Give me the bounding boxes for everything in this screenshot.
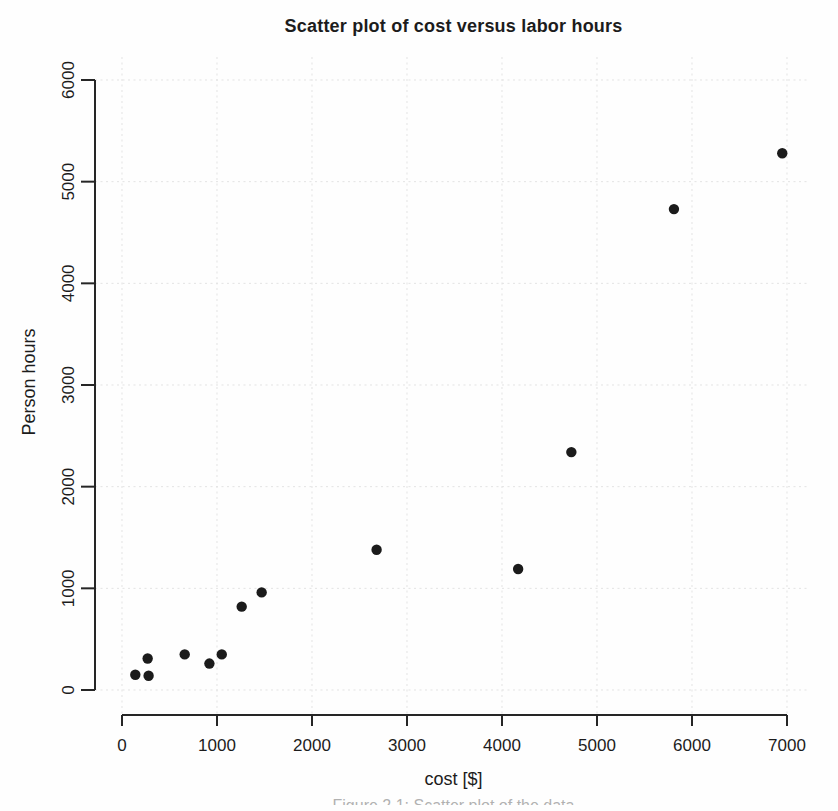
y-tick-label: 0 <box>59 685 78 694</box>
x-tick-label: 4000 <box>483 736 521 755</box>
x-tick-label: 3000 <box>388 736 426 755</box>
x-tick-label: 6000 <box>673 736 711 755</box>
data-point <box>256 587 266 597</box>
figure-page: Scatter plot of cost versus labor hours … <box>0 0 838 811</box>
data-point <box>566 447 576 457</box>
y-tick-label: 1000 <box>59 569 78 607</box>
data-point <box>777 148 787 158</box>
clipped-caption: Figure 2.1: Scatter plot of the data <box>95 799 812 805</box>
data-point <box>204 658 214 668</box>
x-tick-label: 7000 <box>768 736 806 755</box>
x-tick-label: 2000 <box>293 736 331 755</box>
data-point <box>669 204 679 214</box>
data-point <box>513 564 523 574</box>
data-point <box>371 545 381 555</box>
y-tick-label: 3000 <box>59 366 78 404</box>
data-point <box>217 649 227 659</box>
x-axis-label: cost [$] <box>95 769 812 790</box>
x-tick-label: 0 <box>117 736 126 755</box>
data-point <box>143 671 153 681</box>
scatter-plot: 0100020003000400050006000700001000200030… <box>0 0 838 811</box>
data-point <box>180 649 190 659</box>
y-tick-label: 4000 <box>59 264 78 302</box>
data-point <box>237 601 247 611</box>
x-tick-label: 5000 <box>578 736 616 755</box>
x-tick-label: 1000 <box>198 736 236 755</box>
y-tick-label: 5000 <box>59 163 78 201</box>
data-point <box>142 653 152 663</box>
clipped-caption-text: Figure 2.1: Scatter plot of the data <box>333 799 575 805</box>
y-tick-label: 2000 <box>59 468 78 506</box>
y-axis-label: Person hours <box>19 328 40 435</box>
data-point <box>130 670 140 680</box>
y-tick-label: 6000 <box>59 61 78 99</box>
